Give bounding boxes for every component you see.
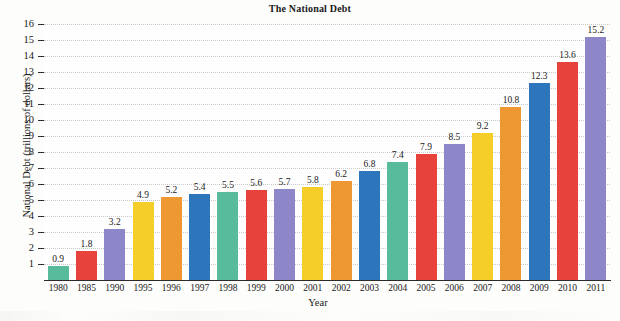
y-tick-mark [38, 88, 44, 89]
bar[interactable] [557, 62, 578, 280]
y-tick-mark [38, 104, 44, 105]
plot-area: 0.91.83.24.95.25.45.55.65.75.86.26.87.47… [44, 25, 610, 280]
scan-artifact [0, 311, 620, 321]
bar[interactable] [189, 194, 210, 280]
bar[interactable] [529, 83, 550, 280]
bar[interactable] [585, 37, 606, 280]
y-tick-label: 4 [0, 211, 34, 221]
y-tick-mark [38, 56, 44, 57]
x-axis-title-text: Year [308, 297, 327, 308]
bar-value-label: 12.3 [525, 71, 554, 81]
gridline [44, 264, 610, 265]
y-tick-mark [38, 264, 44, 265]
y-tick-label: 3 [0, 227, 34, 237]
gridline [44, 88, 610, 89]
y-tick-mark [38, 152, 44, 153]
gridline [44, 56, 610, 57]
y-tick-mark [38, 248, 44, 249]
y-tick-label: 12 [0, 83, 34, 93]
y-tick-label: 10 [0, 115, 34, 125]
bar-value-label: 5.4 [185, 182, 214, 192]
bar[interactable] [500, 107, 521, 280]
bar-value-label: 4.9 [129, 190, 158, 200]
y-tick-mark [38, 184, 44, 185]
bar-value-label: 5.7 [270, 177, 299, 187]
x-axis-line [44, 280, 611, 281]
bar[interactable] [217, 192, 238, 280]
bar-value-label: 0.9 [44, 254, 73, 264]
bar-value-label: 5.5 [213, 180, 242, 190]
y-tick-mark [38, 232, 44, 233]
bar[interactable] [133, 202, 154, 280]
bar[interactable] [331, 181, 352, 280]
chart-page: The National Debt National Debt (trillio… [0, 0, 620, 321]
bar-value-label: 9.2 [468, 121, 497, 131]
bar-value-label: 13.6 [553, 50, 582, 60]
gridline [44, 232, 610, 233]
y-tick-mark [38, 200, 44, 201]
bar[interactable] [48, 266, 69, 280]
bar-value-label: 5.8 [298, 175, 327, 185]
bar[interactable] [246, 190, 267, 280]
y-tick-label: 1 [0, 259, 34, 269]
y-tick-mark [38, 168, 44, 169]
bar-value-label: 6.8 [355, 159, 384, 169]
bar-value-label: 7.9 [412, 142, 441, 152]
bar-value-label: 1.8 [72, 239, 101, 249]
y-tick-label: 7 [0, 163, 34, 173]
y-tick-mark [38, 216, 44, 217]
bar[interactable] [472, 133, 493, 280]
bar-value-label: 5.6 [242, 178, 271, 188]
gridline [44, 40, 610, 41]
gridline [44, 200, 610, 201]
x-axis-title: Year [0, 297, 620, 308]
bar[interactable] [274, 189, 295, 280]
bar-value-label: 5.2 [157, 185, 186, 195]
y-tick-mark [38, 40, 44, 41]
y-tick-label: 9 [0, 131, 34, 141]
y-tick-label: 5 [0, 195, 34, 205]
gridline [44, 248, 610, 249]
y-tick-label: 2 [0, 243, 34, 253]
bar[interactable] [104, 229, 125, 280]
bar[interactable] [302, 187, 323, 280]
y-tick-label: 13 [0, 67, 34, 77]
bar-value-label: 15.2 [581, 25, 610, 35]
bar[interactable] [387, 162, 408, 280]
gridline [44, 120, 610, 121]
y-tick-label: 8 [0, 147, 34, 157]
y-tick-label: 16 [0, 19, 34, 29]
y-tick-mark [38, 24, 44, 25]
y-tick-mark [38, 72, 44, 73]
gridline [44, 152, 610, 153]
gridline [44, 136, 610, 137]
bar-value-label: 10.8 [496, 95, 525, 105]
chart-title: The National Debt [0, 3, 620, 14]
bar[interactable] [76, 251, 97, 280]
y-tick-mark [38, 120, 44, 121]
y-tick-label: 6 [0, 179, 34, 189]
bar-value-label: 8.5 [440, 132, 469, 142]
y-tick-mark [38, 136, 44, 137]
y-tick-label: 14 [0, 51, 34, 61]
x-tick-label: 2011 [580, 283, 612, 294]
bar-value-label: 6.2 [327, 169, 356, 179]
y-tick-label: 11 [0, 99, 34, 109]
bar-value-label: 7.4 [383, 150, 412, 160]
bar[interactable] [416, 154, 437, 280]
bar-value-label: 3.2 [100, 217, 129, 227]
bar[interactable] [359, 171, 380, 280]
gridline [44, 24, 610, 25]
bar[interactable] [444, 144, 465, 280]
bar[interactable] [161, 197, 182, 280]
y-tick-label: 15 [0, 35, 34, 45]
